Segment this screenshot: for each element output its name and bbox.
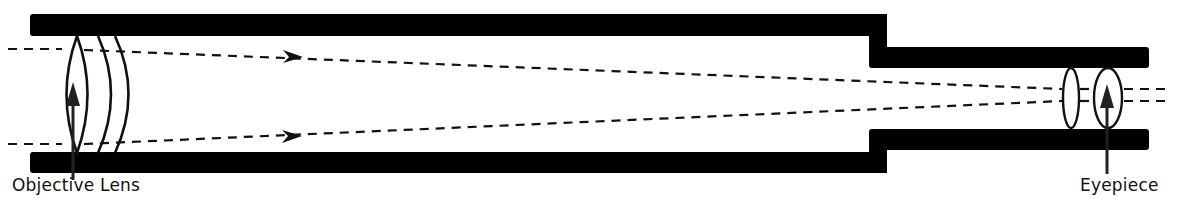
eyepiece-field-lens bbox=[1063, 68, 1079, 128]
ray-arrow-top-icon bbox=[283, 50, 303, 63]
objective-meniscus-2 bbox=[115, 36, 129, 153]
tube-bottom-wall bbox=[30, 129, 1149, 173]
eyepiece-label: Eyepiece bbox=[1080, 175, 1159, 195]
telescope-diagram: Objective Lens Eyepiece bbox=[0, 0, 1186, 199]
ray-arrow-bottom-icon bbox=[282, 130, 302, 143]
eyepiece-lenses bbox=[1063, 68, 1122, 128]
telescope-svg bbox=[0, 0, 1186, 199]
objective-meniscus-1 bbox=[98, 36, 111, 153]
objective-lens-label: Objective Lens bbox=[12, 175, 140, 195]
tube-top-wall bbox=[30, 14, 1149, 68]
